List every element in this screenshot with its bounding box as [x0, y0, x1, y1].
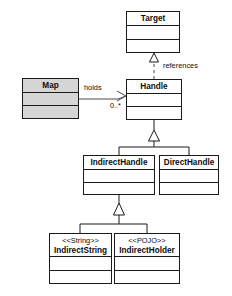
indirectholder-stereotype: <<POJO>>	[128, 236, 165, 245]
class-box-indirect-holder[interactable]: <<POJO>> IndirectHolder	[115, 234, 180, 284]
relationship-references: references	[150, 53, 199, 79]
class-box-target[interactable]: Target	[127, 12, 180, 53]
uml-class-diagram: references Handle (holds) ============ -…	[0, 0, 232, 296]
handle-gen-hollow-triangle	[149, 130, 160, 141]
indirectholder-class-name: IndirectHolder	[119, 246, 175, 255]
target-class-name: Target	[141, 14, 166, 23]
class-box-indirect-handle[interactable]: IndirectHandle	[84, 156, 155, 195]
holds-label: holds	[84, 83, 102, 92]
directhandle-class-name: DirectHandle	[164, 158, 215, 167]
diagram-canvas: references Handle (holds) ============ -…	[0, 0, 232, 296]
relationship-handle-generalization	[119, 120, 189, 155]
class-box-map[interactable]: Map	[23, 79, 79, 119]
references-hollow-triangle	[150, 53, 159, 62]
indirecthandle-class-name: IndirectHandle	[91, 158, 148, 167]
indirectstring-stereotype: <<String>>	[62, 236, 99, 245]
map-class-name: Map	[42, 81, 58, 90]
references-label: references	[163, 61, 198, 70]
relationship-indirect-generalization	[80, 195, 147, 233]
indirect-gen-hollow-triangle	[114, 203, 125, 215]
holds-line	[79, 96, 126, 99]
handle-class-name: Handle	[140, 82, 168, 91]
class-box-direct-handle[interactable]: DirectHandle	[160, 156, 219, 195]
class-box-handle[interactable]: Handle	[127, 80, 182, 120]
relationship-holds: holds 0..*	[79, 83, 126, 110]
holds-multiplicity-label: 0..*	[110, 101, 121, 110]
class-box-indirect-string[interactable]: <<String>> IndirectString	[50, 234, 112, 284]
indirectstring-class-name: IndirectString	[54, 246, 107, 255]
